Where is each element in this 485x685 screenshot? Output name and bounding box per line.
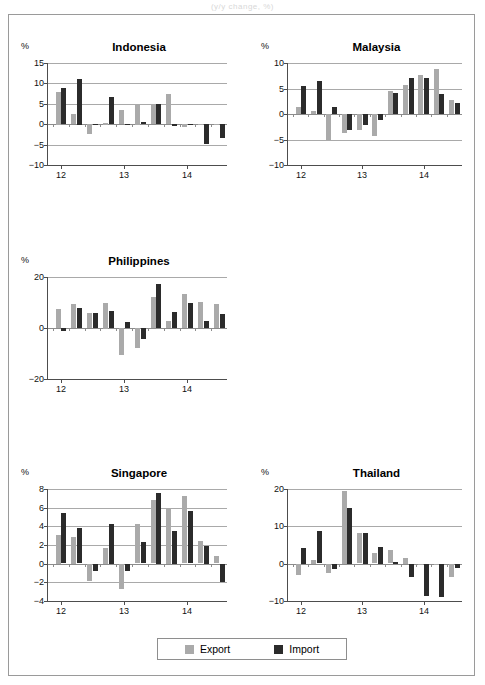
x-tick-mark xyxy=(85,328,86,331)
x-tick-mark xyxy=(416,114,417,117)
x-major-tick-mark xyxy=(61,379,62,383)
y-tick-label-10: 10 xyxy=(274,522,284,531)
x-tick-mark xyxy=(116,328,117,331)
bar-export-14Q2 xyxy=(198,541,203,563)
x-major-tick-mark xyxy=(424,601,425,605)
chart-legend: Export Import xyxy=(157,638,347,660)
bar-export-13Q4 xyxy=(166,508,171,564)
y-tick-label--10: −10 xyxy=(29,161,44,170)
y-axis-unit-label: % xyxy=(261,467,269,477)
x-tick-mark xyxy=(132,328,133,331)
bar-import-12Q2 xyxy=(317,531,322,563)
x-tick-mark xyxy=(180,328,181,331)
gridline-y-8 xyxy=(47,489,227,490)
y-tick-label--10: −10 xyxy=(269,161,284,170)
x-tick-mark xyxy=(148,124,149,127)
bar-export-12Q2 xyxy=(71,537,76,564)
y-axis-unit-label: % xyxy=(21,255,29,265)
bar-import-12Q3 xyxy=(93,313,98,328)
y-tick-label--5: −5 xyxy=(34,141,44,150)
x-tick-mark xyxy=(354,564,355,567)
bar-export-12Q4 xyxy=(103,123,108,125)
x-tick-mark xyxy=(85,124,86,127)
x-tick-label-13: 13 xyxy=(357,171,367,180)
bar-export-14Q3 xyxy=(449,564,454,577)
x-tick-mark xyxy=(308,114,309,117)
x-tick-mark xyxy=(293,114,294,117)
x-tick-mark xyxy=(324,564,325,567)
x-tick-mark xyxy=(195,124,196,127)
bar-import-13Q4 xyxy=(409,78,414,114)
bar-import-12Q1 xyxy=(61,513,66,563)
bar-export-12Q2 xyxy=(311,560,316,564)
bar-export-13Q1 xyxy=(357,533,362,563)
bar-import-13Q1 xyxy=(363,533,368,564)
x-tick-mark xyxy=(116,564,117,567)
y-tick-label--10: −10 xyxy=(269,597,284,606)
chart-panel-thailand: %Thailand20100−10121314 xyxy=(261,467,466,627)
x-tick-mark xyxy=(211,124,212,127)
bar-import-13Q4 xyxy=(172,312,177,328)
bar-export-14Q3 xyxy=(214,556,219,563)
bar-import-14Q1 xyxy=(188,303,193,328)
y-axis-unit-label: % xyxy=(21,467,29,477)
bar-import-14Q2 xyxy=(204,546,209,564)
x-tick-mark xyxy=(69,564,70,567)
x-tick-mark xyxy=(339,114,340,117)
x-tick-mark xyxy=(180,564,181,567)
bar-export-13Q1 xyxy=(119,110,124,124)
gridline-y-10 xyxy=(287,526,462,527)
bar-import-14Q3 xyxy=(220,564,225,582)
bar-import-12Q3 xyxy=(332,564,337,569)
plot-area-thailand: 20100−10121314 xyxy=(287,489,462,601)
bar-import-12Q1 xyxy=(61,88,66,124)
bar-import-12Q1 xyxy=(61,328,66,331)
x-tick-mark xyxy=(324,114,325,117)
x-tick-mark xyxy=(180,124,181,127)
bar-export-12Q4 xyxy=(103,303,108,329)
bar-import-12Q3 xyxy=(332,107,337,114)
chart-title-singapore: Singapore xyxy=(47,467,231,479)
bar-export-12Q2 xyxy=(71,304,76,328)
y-tick-label-10: 10 xyxy=(274,59,284,68)
x-tick-mark xyxy=(164,564,165,567)
bar-import-12Q4 xyxy=(347,508,352,564)
bar-import-13Q1 xyxy=(363,114,368,125)
bar-import-14Q3 xyxy=(220,314,225,328)
x-major-tick-mark xyxy=(424,165,425,169)
x-major-tick-mark xyxy=(61,165,62,169)
legend-item-import: Import xyxy=(274,643,319,655)
bar-import-13Q3 xyxy=(156,104,161,124)
y-axis-line xyxy=(47,277,48,379)
plot-area-malaysia: 1050−5−10121314 xyxy=(287,63,462,165)
x-tick-mark xyxy=(69,328,70,331)
bar-import-13Q4 xyxy=(172,124,177,126)
x-axis-line xyxy=(47,601,227,602)
x-tick-label-12: 12 xyxy=(56,171,66,180)
chart-title-thailand: Thailand xyxy=(287,467,466,479)
gridline-y--5 xyxy=(287,140,462,141)
x-tick-label-14: 14 xyxy=(419,607,429,616)
y-tick-label--5: −5 xyxy=(274,136,284,145)
chart-title-malaysia: Malaysia xyxy=(287,41,466,53)
bar-export-13Q4 xyxy=(403,85,408,114)
bar-export-12Q3 xyxy=(87,564,92,581)
bar-import-14Q3 xyxy=(455,564,460,568)
bar-export-14Q1 xyxy=(182,496,187,563)
gridline-y--5 xyxy=(47,145,227,146)
x-axis-line xyxy=(287,165,462,166)
export-color-swatch xyxy=(185,645,194,654)
legend-label-import: Import xyxy=(289,643,319,655)
bar-export-14Q3 xyxy=(214,124,219,125)
x-tick-mark xyxy=(164,328,165,331)
bar-export-13Q2 xyxy=(135,328,140,348)
x-tick-label-12: 12 xyxy=(296,607,306,616)
bar-import-14Q1 xyxy=(188,124,193,125)
x-tick-label-13: 13 xyxy=(119,171,129,180)
bar-import-12Q4 xyxy=(109,311,114,328)
bar-import-13Q2 xyxy=(378,114,383,120)
y-axis-unit-label: % xyxy=(261,41,269,51)
plot-area-indonesia: 151050−5−10121314 xyxy=(47,63,227,165)
x-major-tick-mark xyxy=(301,601,302,605)
y-axis-line xyxy=(47,63,48,165)
